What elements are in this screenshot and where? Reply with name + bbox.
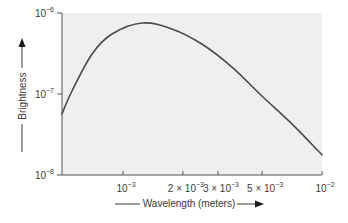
x-tick-label: 10−3 <box>116 181 135 194</box>
x-axis-label: Wavelength (meters) <box>143 198 235 209</box>
y-axis: 10−610−710−8 <box>35 6 62 181</box>
x-tick-label: 2 × 10−3 <box>168 181 204 194</box>
y-tick-label: 10−7 <box>35 87 54 100</box>
chart-svg: 10−610−710−8 10−32 × 10−33 × 10−35 × 10−… <box>0 0 348 223</box>
y-axis-label-group: Brightness <box>17 38 28 152</box>
arrow-right-icon <box>255 201 264 208</box>
x-tick-label: 10−2 <box>315 181 334 194</box>
arrow-up-icon <box>19 38 26 47</box>
y-tick-label: 10−6 <box>35 6 54 19</box>
chart: 10−610−710−8 10−32 × 10−33 × 10−35 × 10−… <box>0 0 348 223</box>
y-tick-label: 10−8 <box>35 168 54 181</box>
x-tick-label: 3 × 10−3 <box>203 181 239 194</box>
x-tick-label: 5 × 10−3 <box>247 181 283 194</box>
x-axis-label-group: Wavelength (meters) <box>115 198 264 209</box>
y-axis-label: Brightness <box>17 72 28 119</box>
